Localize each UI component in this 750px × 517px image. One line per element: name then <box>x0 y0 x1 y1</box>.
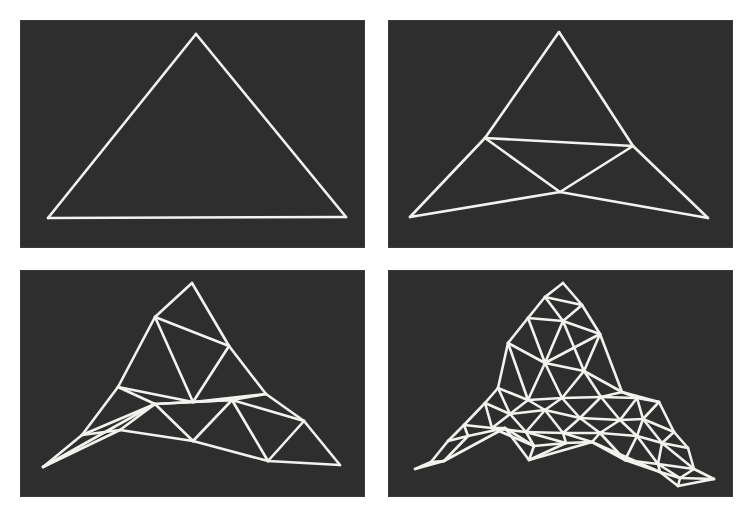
mesh-edge <box>485 138 633 146</box>
mesh-edge <box>662 432 674 443</box>
mesh-edge <box>545 363 562 398</box>
panel-level-2 <box>20 270 365 497</box>
mesh-edge <box>562 371 584 398</box>
mesh-edge <box>559 32 633 146</box>
mesh-edge <box>492 414 510 428</box>
mesh-edge <box>562 397 601 398</box>
mesh-edge <box>600 334 622 392</box>
mesh-edge <box>528 297 545 318</box>
mesh-edge <box>196 34 346 217</box>
mesh-edge <box>545 321 563 363</box>
mesh-edge <box>620 419 643 420</box>
mesh-edge <box>410 192 560 217</box>
mesh-edge <box>193 400 232 441</box>
mesh-edge <box>620 398 637 420</box>
mesh-edge <box>304 421 340 465</box>
mesh-edge <box>563 433 592 442</box>
mesh-edge <box>155 283 192 317</box>
mesh-edge <box>528 400 545 410</box>
mesh-edge <box>600 420 620 433</box>
mesh-edge <box>601 397 637 398</box>
mesh-edge <box>528 363 545 400</box>
panel-level-0 <box>20 20 365 248</box>
mesh-level-1 <box>388 20 733 248</box>
mesh-edge <box>580 397 601 418</box>
mesh-edge <box>118 387 193 402</box>
mesh-edge <box>601 397 620 420</box>
mesh-edge <box>637 398 643 419</box>
mesh-edge <box>563 305 582 321</box>
mesh-edge <box>563 418 580 433</box>
mesh-edge <box>266 394 304 421</box>
mesh-edge <box>680 469 694 478</box>
mesh-edge <box>498 343 508 388</box>
mesh-edge <box>580 418 600 433</box>
mesh-edge <box>545 363 584 371</box>
mesh-edge <box>580 418 620 420</box>
mesh-edge <box>464 403 485 425</box>
mesh-edge <box>658 443 662 464</box>
mesh-edge <box>431 461 444 462</box>
mesh-edge <box>545 334 600 363</box>
mesh-edge <box>118 317 155 387</box>
panel-level-3 <box>388 270 733 497</box>
mesh-edge <box>678 479 714 486</box>
mesh-edge <box>48 217 346 218</box>
mesh-edge <box>528 398 562 400</box>
mesh-level-0 <box>20 20 365 248</box>
mesh-edge <box>637 419 643 436</box>
mesh-edge <box>528 318 563 321</box>
mesh-edge <box>600 433 637 436</box>
mesh-edge <box>229 346 266 394</box>
mesh-edge <box>485 388 498 403</box>
mesh-edge <box>545 283 563 297</box>
mesh-edge <box>48 34 196 218</box>
mesh-edge <box>268 461 340 465</box>
mesh-edge <box>268 421 304 461</box>
mesh-edge <box>444 428 505 461</box>
mesh-edge <box>485 32 559 138</box>
mesh-edge <box>508 318 528 343</box>
mesh-edge <box>464 425 492 428</box>
mesh-edge <box>526 410 545 432</box>
mesh-edge <box>592 433 600 442</box>
mesh-edge <box>643 402 659 419</box>
mesh-edge <box>192 283 229 346</box>
mesh-level-3 <box>388 270 733 497</box>
mesh-edge <box>193 346 229 402</box>
mesh-level-2 <box>20 270 365 497</box>
mesh-edge <box>485 138 560 192</box>
panel-level-1 <box>388 20 733 248</box>
mesh-edge <box>560 146 633 192</box>
